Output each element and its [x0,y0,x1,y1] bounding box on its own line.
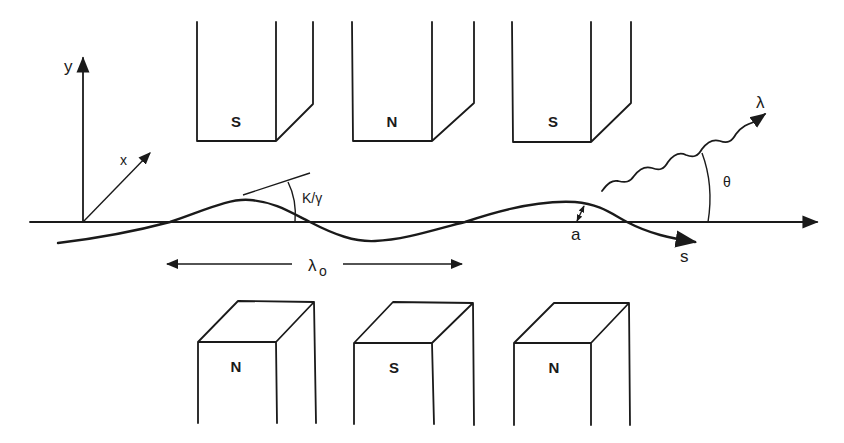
emission-angle-arc [702,153,710,222]
top-magnet-3: S [512,22,631,142]
amplitude-label: a [571,225,581,244]
period-label: λ [308,256,317,275]
pole-label: S [548,113,558,130]
pole-label: S [231,113,241,130]
bottom-magnet-1: N [198,301,316,423]
radiation-wave: λ θ [602,93,765,222]
y-axis-label: y [64,57,73,76]
pole-label: N [231,358,242,375]
tangent-line [243,173,310,195]
s-label: s [680,247,689,266]
k-over-gamma-label: K/γ [302,190,322,206]
coordinate-axes: y x [30,57,817,222]
pole-label: N [549,359,560,376]
deflection-angle: K/γ [243,173,322,222]
wavelength-label: λ [756,93,765,112]
pole-label: S [389,359,399,376]
bottom-magnet-3: N [514,303,630,425]
amplitude-indicator: a [571,206,584,244]
bottom-magnet-2: S [354,302,474,425]
electron-trajectory: s [58,200,695,266]
undulator-diagram: S N S N S N y x s K/γ [0,0,844,443]
period-indicator: λ o [167,256,462,279]
angle-arc [288,182,295,222]
top-magnet-2: N [352,22,474,141]
theta-label: θ [723,174,731,190]
x-axis-label: x [120,152,127,168]
x-axis-arrow [83,153,150,222]
top-magnet-1: S [197,22,313,141]
period-subscript: o [319,263,327,279]
pole-label: N [387,113,398,130]
